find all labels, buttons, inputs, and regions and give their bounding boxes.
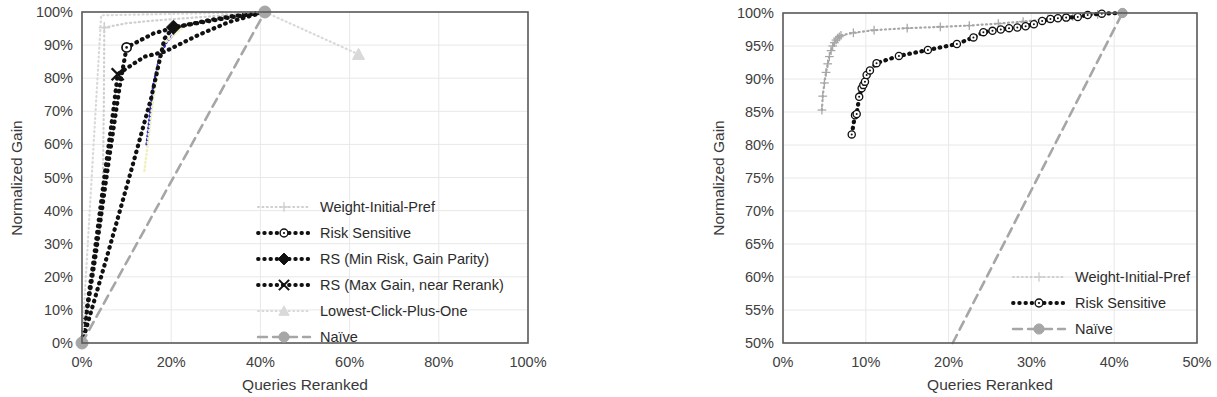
data-point-marker-plus — [823, 59, 832, 68]
data-point-marker-circle-open — [1005, 25, 1012, 32]
data-point-marker-circle-open — [970, 34, 977, 41]
y-tick-label: 10% — [44, 302, 73, 318]
right-x-tick-labels: 0%10%20%30%40%50% — [773, 354, 1212, 370]
y-tick-label: 65% — [745, 236, 774, 252]
legend-item[interactable]: Risk Sensitive — [1013, 295, 1166, 311]
data-point-marker-circle-open — [1022, 23, 1029, 30]
figure-root: 0%10%20%30%40%50%60%70%80%90%100% 0%20%4… — [0, 0, 1217, 397]
right-y-tick-labels: 50%55%60%65%70%75%80%85%90%95%100% — [737, 5, 774, 351]
data-point-marker-circle-open — [848, 131, 855, 138]
data-point-marker-circle-open — [856, 93, 863, 100]
chart-panel-right: 50%55%60%65%70%75%80%85%90%95%100% 0%10%… — [608, 0, 1217, 397]
y-tick-label: 90% — [745, 71, 774, 87]
x-tick-label: 30% — [1017, 354, 1046, 370]
left-y-axis-title: Normalized Gain — [8, 120, 25, 235]
data-point-marker-plus — [820, 79, 829, 88]
legend-item[interactable]: Naïve — [1013, 321, 1113, 337]
data-point-marker-plus — [822, 68, 831, 77]
x-tick-label: 20% — [934, 354, 963, 370]
legend-label: Naïve — [1075, 321, 1113, 337]
y-tick-label: 95% — [745, 38, 774, 54]
data-point-marker-plus — [849, 28, 858, 37]
data-point-marker-circle-open — [1063, 14, 1070, 21]
y-tick-label: 80% — [44, 70, 73, 86]
legend-item[interactable]: Weight-Initial-Pref — [1013, 269, 1191, 285]
y-tick-label: 30% — [44, 236, 73, 252]
data-point-marker-triangle — [353, 48, 365, 59]
data-point-marker-circle-open — [895, 52, 902, 59]
y-tick-label: 20% — [44, 269, 73, 285]
data-point-marker-plus — [827, 46, 836, 55]
x-tick-label: 50% — [1182, 354, 1211, 370]
legend-label: Risk Sensitive — [320, 225, 411, 241]
legend-item[interactable]: Risk Sensitive — [258, 225, 411, 241]
left-legend: Weight-Initial-PrefRisk SensitiveRS (Min… — [258, 199, 504, 345]
data-point-marker-circle-open — [953, 40, 960, 47]
x-tick-label: 100% — [509, 354, 546, 370]
y-tick-label: 60% — [745, 269, 774, 285]
series-line — [822, 13, 1123, 110]
right-legend: Weight-Initial-PrefRisk SensitiveNaïve — [1013, 269, 1191, 337]
data-point-marker-circle-open — [1035, 299, 1043, 307]
legend-item[interactable]: Lowest-Click-Plus-One — [258, 303, 467, 319]
data-point-marker-circle-open — [989, 27, 996, 34]
x-tick-label: 10% — [851, 354, 880, 370]
legend-item[interactable]: RS (Min Risk, Gain Parity) — [258, 251, 489, 267]
legend-label: Weight-Initial-Pref — [1075, 269, 1191, 285]
data-point-marker-circle-open — [1074, 13, 1081, 20]
y-tick-label: 100% — [737, 5, 774, 21]
x-tick-label: 40% — [1100, 354, 1129, 370]
x-tick-label: 0% — [773, 354, 794, 370]
legend-item[interactable]: Weight-Initial-Pref — [258, 199, 436, 215]
data-point-marker-circle-open — [866, 67, 873, 74]
data-point-marker-circle-open — [280, 229, 288, 237]
y-tick-label: 100% — [36, 4, 73, 20]
left-y-tick-labels: 0%10%20%30%40%50%60%70%80%90%100% — [36, 4, 73, 351]
legend-label: Risk Sensitive — [1075, 295, 1166, 311]
x-tick-label: 60% — [335, 354, 364, 370]
y-tick-label: 0% — [52, 335, 73, 351]
right-y-axis-title: Normalized Gain — [710, 120, 727, 235]
y-tick-label: 85% — [745, 104, 774, 120]
y-tick-label: 60% — [44, 136, 73, 152]
left-chart-svg: 0%10%20%30%40%50%60%70%80%90%100% 0%20%4… — [0, 0, 608, 397]
x-tick-label: 0% — [72, 354, 93, 370]
y-tick-label: 90% — [44, 37, 73, 53]
right-chart-svg: 50%55%60%65%70%75%80%85%90%95%100% 0%10%… — [608, 0, 1217, 397]
x-tick-label: 80% — [424, 354, 453, 370]
data-point-marker-circle-filled — [1034, 324, 1044, 334]
data-point-marker-circle-open — [1047, 15, 1054, 22]
data-point-marker-circle-open — [1030, 21, 1037, 28]
legend-item[interactable]: RS (Max Gain, near Rerank) — [258, 277, 504, 293]
data-point-marker-plus — [965, 21, 974, 30]
data-point-marker-circle-open — [980, 29, 987, 36]
data-point-marker-plus — [1034, 272, 1044, 282]
right-gridlines — [783, 13, 1197, 343]
data-point-marker-circle-open — [997, 26, 1004, 33]
data-point-marker-circle-open — [122, 43, 131, 52]
right-x-axis-title: Queries Reranked — [927, 376, 1053, 393]
y-tick-label: 70% — [44, 103, 73, 119]
y-tick-label: 75% — [745, 170, 774, 186]
data-point-marker-plus — [936, 22, 945, 31]
y-tick-label: 55% — [745, 302, 774, 318]
y-tick-label: 40% — [44, 203, 73, 219]
y-tick-label: 50% — [44, 170, 73, 186]
left-x-tick-labels: 0%20%40%60%80%100% — [72, 354, 547, 370]
right-series-layer — [818, 8, 1128, 343]
data-point-marker-plus — [825, 52, 834, 61]
y-tick-label: 70% — [745, 203, 774, 219]
data-point-marker-circle-open — [924, 46, 931, 53]
data-point-marker-diamond-filled — [278, 253, 290, 265]
y-tick-label: 80% — [745, 137, 774, 153]
legend-label: Lowest-Click-Plus-One — [320, 303, 467, 319]
chart-panel-left: 0%10%20%30%40%50%60%70%80%90%100% 0%20%4… — [0, 0, 608, 397]
data-point-marker-circle-open — [873, 60, 880, 67]
data-point-marker-circle-open — [853, 110, 860, 117]
data-point-marker-plus — [818, 92, 827, 101]
data-point-marker-circle-filled — [279, 332, 289, 342]
legend-label: Naïve — [320, 329, 358, 345]
data-point-marker-circle-open — [1039, 17, 1046, 24]
legend-label: RS (Min Risk, Gain Parity) — [320, 251, 489, 267]
data-point-marker-circle-open — [1054, 15, 1061, 22]
